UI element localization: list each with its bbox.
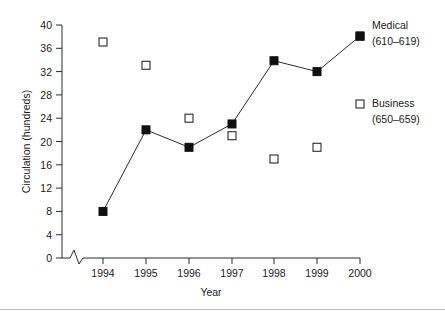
y-tick-label: 24: [40, 112, 52, 124]
x-tick-label: 1997: [220, 267, 244, 279]
y-tick-label: 20: [40, 136, 52, 148]
medical-data-point-1999: [313, 68, 321, 76]
line-chart-svg: 40 36 32 28 24 20 16 12 8 4 0 1994 1995 …: [0, 0, 445, 318]
medical-data-point-1998: [270, 57, 278, 65]
business-series-markers: [99, 38, 321, 163]
medical-data-point-1994: [99, 207, 107, 215]
y-tick-marks: [56, 25, 62, 258]
chart-figure: 40 36 32 28 24 20 16 12 8 4 0 1994 1995 …: [0, 0, 445, 318]
x-axis-title: Year: [200, 286, 222, 298]
y-tick-labels: 40 36 32 28 24 20 16 12 8 4 0: [40, 19, 52, 264]
y-axis-title: Circulation (hundreds): [20, 90, 32, 193]
y-tick-label: 40: [40, 19, 52, 31]
y-tick-label: 28: [40, 89, 52, 101]
x-tick-labels: 1994 1995 1996 1997 1998 1999 2000: [91, 267, 372, 279]
business-data-point-1994: [99, 38, 107, 46]
business-data-point-1997: [228, 132, 236, 140]
legend-sublabel-medical: (610–619): [372, 35, 420, 47]
y-tick-label: 8: [46, 205, 52, 217]
y-tick-label: 16: [40, 159, 52, 171]
y-tick-label: 12: [40, 182, 52, 194]
x-tick-label: 1995: [134, 267, 158, 279]
x-tick-label: 1999: [305, 267, 329, 279]
y-tick-label: 0: [46, 252, 52, 264]
legend-entry-medical: Medical (610–619): [356, 19, 420, 47]
medical-data-point-1996: [185, 143, 193, 151]
medical-data-point-1995: [142, 126, 150, 134]
x-axis-line-with-break: [62, 250, 360, 264]
business-data-point-1998: [270, 155, 278, 163]
x-tick-label: 2000: [348, 267, 372, 279]
legend-entry-business: Business (650–659): [356, 97, 420, 125]
y-tick-label: 32: [40, 66, 52, 78]
y-tick-label: 36: [40, 42, 52, 54]
x-tick-label: 1994: [91, 267, 115, 279]
legend-label-medical: Medical: [372, 19, 408, 31]
business-data-point-1999: [313, 143, 321, 151]
legend-sublabel-business: (650–659): [372, 113, 420, 125]
y-tick-label: 4: [46, 229, 52, 241]
x-tick-label: 1996: [177, 267, 201, 279]
business-data-point-1996: [185, 114, 193, 122]
legend-label-business: Business: [372, 97, 415, 109]
footer-divider: [0, 309, 445, 310]
legend-marker-filled-square: [356, 32, 364, 40]
x-tick-label: 1998: [262, 267, 286, 279]
medical-series-markers: [99, 32, 364, 215]
business-data-point-1995: [142, 61, 150, 69]
x-tick-marks: [103, 258, 360, 264]
legend-marker-hollow-square: [356, 100, 364, 108]
medical-data-point-1997: [228, 120, 236, 128]
